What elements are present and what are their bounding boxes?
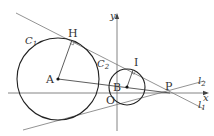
radius-ah <box>58 40 72 79</box>
label-x-axis: x <box>203 92 209 103</box>
label-y-axis: y <box>109 10 116 21</box>
point-a-dot <box>56 77 59 80</box>
label-p: P <box>165 80 173 93</box>
label-b: B <box>113 81 121 94</box>
label-c1: C1 <box>25 35 37 48</box>
label-l2: l2 <box>198 75 206 88</box>
label-h: H <box>68 27 78 40</box>
radius-bi <box>127 70 133 87</box>
label-origin: O <box>106 94 115 107</box>
tangent-circles-diagram: H I P A B O C1 C2 y x l2 l1 <box>0 0 214 136</box>
point-b-dot <box>125 85 128 88</box>
label-a: A <box>45 73 55 86</box>
label-i: I <box>134 56 138 69</box>
